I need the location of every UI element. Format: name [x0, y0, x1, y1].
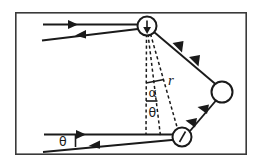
ray-right-to-bottom-arrowhead-1-icon	[198, 105, 210, 115]
theta-upper-label: θ	[149, 105, 157, 120]
right-scatter-node[interactable]	[212, 82, 233, 103]
ray-top-to-right-arrowhead-2-icon	[189, 55, 200, 67]
upper-incoming-arrowhead-icon	[68, 20, 78, 29]
alpha-upper-tick	[146, 80, 164, 84]
scattering-diagram: α θ r θ	[0, 0, 262, 167]
upper-outgoing-ray	[42, 29, 142, 41]
ray-right-to-bottom-arrowhead-2-icon	[186, 118, 198, 128]
theta-lower-label: θ	[59, 134, 67, 149]
dashed-vertical-guide	[146, 34, 147, 135]
ray-top-to-right-arrowhead-1-icon	[173, 41, 184, 53]
radius-label: r	[168, 72, 174, 88]
figure-border	[16, 13, 246, 154]
ray-top-to-right	[154, 32, 216, 85]
lower-incoming-arrowhead-icon	[76, 130, 86, 139]
figure-root: α θ r θ	[0, 0, 262, 167]
alpha-label: α	[149, 85, 157, 100]
